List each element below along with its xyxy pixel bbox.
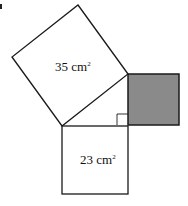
pythagoras-diagram: 35 cm2 23 cm2: [0, 0, 188, 206]
right-angle-mark: [117, 114, 128, 125]
corner-mark: [0, 4, 2, 9]
shaded-square: [128, 74, 179, 125]
bottom-area-label: 23 cm2: [80, 152, 116, 167]
hypotenuse-area-label: 35 cm2: [55, 59, 91, 74]
